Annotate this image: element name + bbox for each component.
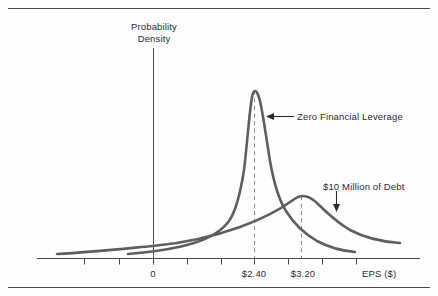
arrow-left-icon — [266, 113, 274, 120]
arrow-down-icon — [333, 204, 340, 212]
y-axis-title-line2: Density — [110, 33, 198, 45]
curve-ten-million-debt — [57, 196, 400, 254]
leader-ten-million-debt — [333, 191, 340, 212]
annotation-zero-financial-leverage: Zero Financial Leverage — [297, 111, 403, 122]
x-tick-label-320: $3.20 — [277, 268, 329, 279]
annotation-ten-million-of-debt: $10 Million of Debt — [323, 181, 405, 192]
x-axis-ticks — [85, 259, 357, 265]
chart-canvas — [0, 0, 438, 296]
leader-zero-leverage — [266, 113, 294, 120]
chart-figure: Probability Density 0 $2.40 $3.20 EPS ($… — [0, 0, 438, 296]
y-axis-title-line1: Probability — [110, 21, 198, 33]
x-axis-title: EPS ($) — [362, 268, 424, 279]
y-axis-title: Probability Density — [110, 21, 198, 44]
x-tick-label-origin: 0 — [140, 268, 166, 279]
x-tick-label-240: $2.40 — [228, 268, 280, 279]
